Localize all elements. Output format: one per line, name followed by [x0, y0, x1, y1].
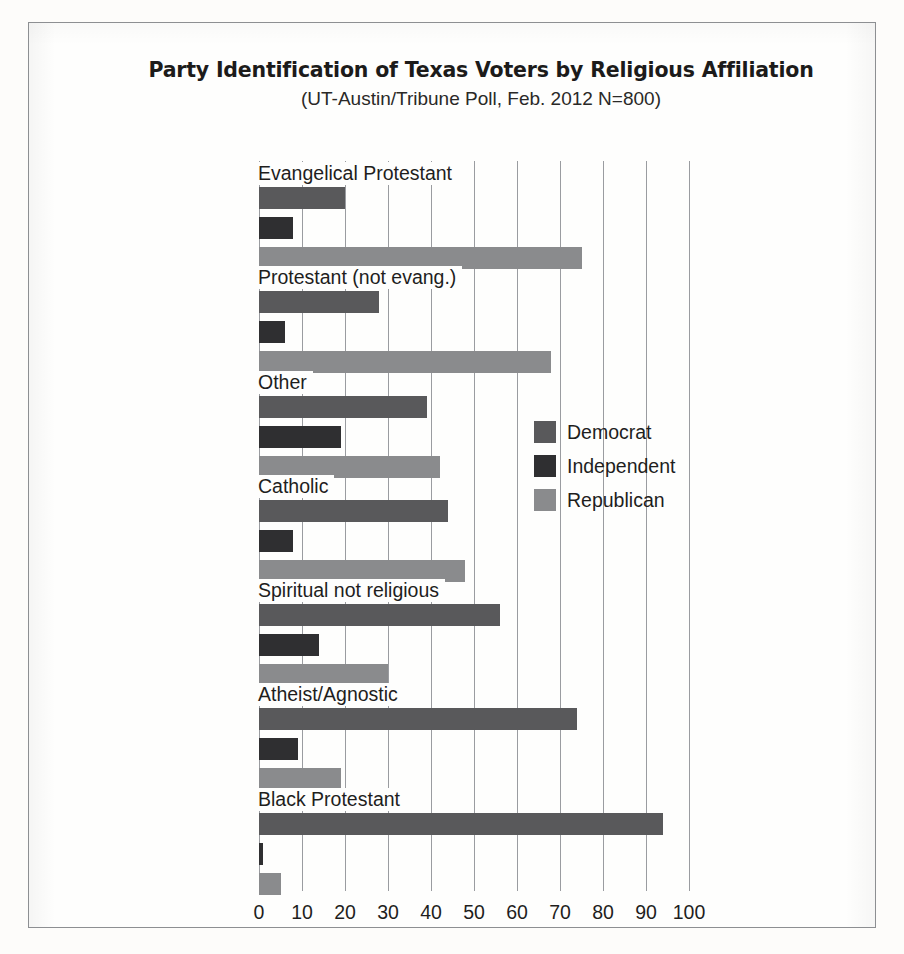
x-tick-label-0: 0 [254, 901, 265, 924]
chart-legend: DemocratIndependentRepublican [534, 415, 675, 517]
x-tick-label-40: 40 [420, 901, 442, 924]
bar-ind [259, 217, 293, 239]
bar-dem [259, 187, 345, 209]
x-tick-label-10: 10 [291, 901, 313, 924]
gridline-100 [689, 161, 690, 891]
chart-subtitle: (UT-Austin/Tribune Poll, Feb. 2012 N=800… [29, 87, 904, 111]
x-tick-label-90: 90 [635, 901, 657, 924]
bar-ind [259, 321, 285, 343]
legend-swatch-rep [534, 489, 556, 511]
bar-ind [259, 530, 293, 552]
x-tick-label-80: 80 [592, 901, 614, 924]
legend-swatch-ind [534, 455, 556, 477]
bar-ind [259, 426, 341, 448]
legend-item-rep: Republican [534, 483, 675, 517]
bar-fill [259, 396, 427, 418]
x-tick-label-60: 60 [506, 901, 528, 924]
category-label: Protestant (not evang.) [258, 266, 462, 289]
category-label: Catholic [258, 475, 334, 498]
bar-dem [259, 604, 500, 626]
x-tick-label-30: 30 [377, 901, 399, 924]
figure-page: Party Identification of Texas Voters by … [0, 0, 904, 954]
category-label: Spiritual not religious [258, 579, 445, 602]
bar-dem [259, 291, 379, 313]
category-label: Other [258, 371, 313, 394]
bar-dem [259, 396, 427, 418]
legend-item-dem: Democrat [534, 415, 675, 449]
legend-label-dem: Democrat [567, 421, 652, 444]
bar-ind [259, 634, 319, 656]
category-label: Evangelical Protestant [258, 162, 458, 185]
bar-fill [259, 291, 379, 313]
title-block: Party Identification of Texas Voters by … [29, 57, 904, 111]
x-axis-tick-labels: 0102030405060708090100 [259, 901, 689, 927]
legend-swatch-dem [534, 421, 556, 443]
bar-fill [259, 634, 319, 656]
x-tick-label-50: 50 [463, 901, 485, 924]
bar-ind [259, 738, 298, 760]
bar-fill [259, 500, 448, 522]
bar-dem [259, 500, 448, 522]
bar-ind [259, 843, 263, 865]
bar-dem [259, 708, 577, 730]
bar-fill [259, 530, 293, 552]
bar-fill [259, 217, 293, 239]
x-tick-label-70: 70 [549, 901, 571, 924]
bar-fill [259, 187, 345, 209]
bar-fill [259, 873, 281, 895]
category-label: Black Protestant [258, 788, 406, 811]
bar-rep [259, 873, 281, 895]
bar-fill [259, 708, 577, 730]
chart-title: Party Identification of Texas Voters by … [29, 57, 904, 83]
x-tick-label-20: 20 [334, 901, 356, 924]
category-label: Atheist/Agnostic [258, 683, 404, 706]
bar-fill [259, 321, 285, 343]
bar-fill [259, 738, 298, 760]
bar-fill [259, 426, 341, 448]
bar-group: Protestant (not evang.) [259, 291, 689, 395]
plot-area: Evangelical ProtestantProtestant (not ev… [259, 161, 689, 891]
legend-label-rep: Republican [567, 489, 665, 512]
bar-fill [259, 604, 500, 626]
bar-fill [259, 813, 663, 835]
legend-item-ind: Independent [534, 449, 675, 483]
figure-frame: Party Identification of Texas Voters by … [28, 22, 876, 928]
legend-label-ind: Independent [567, 455, 675, 478]
bar-dem [259, 813, 663, 835]
x-tick-label-100: 100 [673, 901, 706, 924]
bar-fill [259, 843, 263, 865]
